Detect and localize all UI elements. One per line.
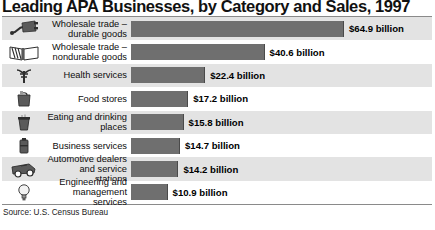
category-label: Health services [46,70,131,80]
caduceus-icon [2,64,46,87]
bar-value-label: $22.4 billion [210,70,265,81]
category-label: Wholesale trade –nondurable goods [46,42,131,62]
bar [131,21,344,37]
coffee-cup-icon [2,111,46,134]
chart-row: Eating and drinkingplaces$15.8 billion [2,111,432,134]
bar-value-label: $40.6 billion [270,47,325,58]
category-label: Business services [46,141,131,151]
category-label-line2: nondurable goods [46,52,127,62]
bar-value-label: $15.8 billion [189,117,244,128]
bar-area: $40.6 billion [131,40,432,63]
chart-row: Food stores$17.2 billion [2,87,432,110]
bar-area: $10.9 billion [131,181,432,204]
bar-area: $64.9 billion [131,17,432,40]
category-label: Wholesale trade –durable goods [46,19,131,39]
category-label-line1: Automotive dealers [47,154,127,164]
bar-value-label: $17.2 billion [193,93,248,104]
bar-value-label: $14.7 billion [185,140,240,151]
category-label-line1: Health services [63,70,127,80]
category-label: Eating and drinkingplaces [46,112,131,132]
category-label-line1: Eating and drinking [47,112,127,122]
bar-value-label: $64.9 billion [349,23,404,34]
lightbulb-icon [2,181,46,204]
bar [131,67,205,83]
category-label-line1: Wholesale trade – [52,42,127,52]
bar-area: $17.2 billion [131,87,432,110]
chart-row: Wholesale trade –durable goods$64.9 bill… [2,17,432,40]
chart-figure: Leading APA Businesses, by Category and … [0,0,435,230]
bar-area: $15.8 billion [131,111,432,134]
chart-row: Engineering andmanagement services$10.9 … [2,181,432,204]
chart-row: Wholesale trade –nondurable goods$40.6 b… [2,40,432,63]
category-label: Engineering andmanagement services [46,177,131,207]
source-note: Source: U.S. Census Bureau [3,208,108,217]
bar [131,44,265,60]
bar-area: $22.4 billion [131,64,432,87]
bar [131,184,168,200]
bar [131,161,178,177]
category-label-line1: Food stores [78,94,127,104]
bar [131,138,180,154]
category-label-line1: Wholesale trade – [52,19,127,29]
bar-value-label: $10.9 billion [173,187,228,198]
page-title: Leading APA Businesses, by Category and … [2,0,435,15]
grocery-bag-icon [2,87,46,110]
bar-value-label: $14.2 billion [183,164,238,175]
bar-chart-body: Wholesale trade –durable goods$64.9 bill… [2,16,432,205]
bar-area: $14.2 billion [131,157,432,180]
bar-area: $14.7 billion [131,134,432,157]
category-label-line1: Business services [53,141,127,151]
bar [131,114,184,130]
category-label-line2: places [46,122,127,132]
category-label-line2: durable goods [46,29,127,39]
category-label: Food stores [46,94,131,104]
open-book-icon [2,40,46,63]
category-label-line2: management services [46,187,127,207]
chart-row: Health services$22.4 billion [2,64,432,87]
car-wrench-icon [2,157,46,180]
electric-plug-icon [2,17,46,40]
briefcase-icon [2,134,46,157]
category-label-line1: Engineering and [59,177,127,187]
bar [131,91,188,107]
